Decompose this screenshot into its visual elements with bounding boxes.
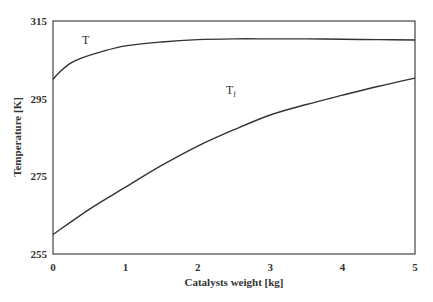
y-tick-label: 255 bbox=[31, 248, 48, 260]
x-tick-label: 0 bbox=[50, 261, 56, 273]
curve-label-tf-sub: f bbox=[233, 90, 236, 99]
line-chart: 255275295315 012345 T Tf Catalysts weigh… bbox=[0, 0, 433, 302]
y-axis-ticks: 255275295315 bbox=[31, 15, 48, 260]
x-tick-label: 1 bbox=[123, 261, 129, 273]
y-tick-label: 295 bbox=[31, 93, 48, 105]
y-tick-label: 275 bbox=[31, 170, 48, 182]
x-tick-label: 2 bbox=[195, 261, 201, 273]
x-axis-label: Catalysts weight [kg] bbox=[185, 276, 284, 288]
x-tick-label: 5 bbox=[412, 261, 418, 273]
x-tick-label: 3 bbox=[267, 261, 273, 273]
x-tick-label: 4 bbox=[340, 261, 346, 273]
curve-label-t: T bbox=[82, 33, 90, 47]
y-axis-label: Temperature [K] bbox=[11, 97, 23, 177]
curve-label-tf: Tf bbox=[226, 83, 236, 99]
x-axis-ticks: 012345 bbox=[50, 261, 418, 273]
curve-t bbox=[53, 39, 415, 79]
plot-frame bbox=[53, 21, 415, 254]
curve-tf bbox=[53, 78, 415, 235]
y-tick-label: 315 bbox=[31, 15, 48, 27]
